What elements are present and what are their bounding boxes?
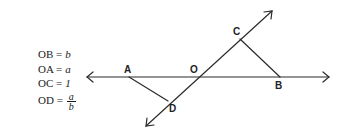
geometry-diagram: A O C B D [0, 0, 341, 135]
point-label-o: O [190, 64, 198, 75]
segment-cb [240, 39, 280, 77]
point-label-d: D [169, 103, 176, 114]
point-label-a: A [124, 64, 131, 75]
point-label-c: C [233, 26, 240, 37]
transversal-line [146, 11, 272, 126]
point-label-b: B [275, 80, 282, 91]
segment-ad [129, 77, 168, 101]
